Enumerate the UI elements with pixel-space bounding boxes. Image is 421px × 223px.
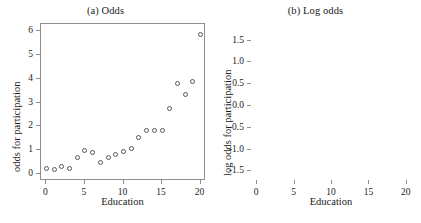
panel-a-yaxis-title: odds for participation xyxy=(11,82,23,172)
y-tick-mark xyxy=(36,149,40,150)
panel-a-plot-frame xyxy=(40,23,205,180)
y-tick-mark xyxy=(36,125,40,126)
panel-log-odds: (b) Log odds -1.5-1.0-0.50.00.51.01.5051… xyxy=(210,0,421,223)
y-tick-mark xyxy=(247,105,251,106)
data-point xyxy=(198,32,203,37)
y-tick-mark xyxy=(247,170,251,171)
x-tick-mark xyxy=(294,180,295,184)
data-point xyxy=(67,166,72,171)
data-point xyxy=(190,79,195,84)
panel-a-plot-area xyxy=(41,24,204,179)
y-tick-mark xyxy=(36,78,40,79)
data-point xyxy=(75,155,80,160)
x-tick-mark xyxy=(331,180,332,184)
x-tick-mark xyxy=(84,180,85,184)
data-point xyxy=(59,164,64,169)
y-tick-label: 1.5 xyxy=(211,35,244,45)
data-point xyxy=(44,166,49,171)
y-tick-mark xyxy=(247,61,251,62)
panel-a-xaxis-title: Education xyxy=(40,196,205,208)
y-tick-label: 6 xyxy=(0,25,33,35)
panel-b-yaxis-title: log odds for participation xyxy=(222,70,234,176)
y-tick-mark xyxy=(247,40,251,41)
data-point xyxy=(129,146,134,151)
data-point xyxy=(52,167,57,172)
y-tick-mark xyxy=(36,30,40,31)
figure-container: (a) Odds 012345605101520 Education odds … xyxy=(0,0,421,223)
data-point xyxy=(152,128,157,133)
x-tick-mark xyxy=(256,180,257,184)
y-tick-mark xyxy=(247,83,251,84)
data-point xyxy=(144,128,149,133)
y-tick-label: 1.0 xyxy=(211,56,244,66)
panel-a-title: (a) Odds xyxy=(0,4,211,17)
data-point xyxy=(183,92,188,97)
x-tick-mark xyxy=(45,180,46,184)
x-tick-mark xyxy=(368,180,369,184)
y-tick-mark xyxy=(36,173,40,174)
y-tick-mark xyxy=(36,54,40,55)
y-tick-mark xyxy=(247,127,251,128)
y-tick-label: 5 xyxy=(0,49,33,59)
y-tick-mark xyxy=(247,149,251,150)
data-point xyxy=(136,135,141,140)
x-tick-mark xyxy=(200,180,201,184)
data-point xyxy=(175,81,180,86)
data-point xyxy=(160,128,165,133)
panel-b-xaxis-title: Education xyxy=(251,196,411,208)
panel-b-title: (b) Log odds xyxy=(210,4,421,17)
data-point xyxy=(90,150,95,155)
data-point xyxy=(106,155,111,160)
data-point xyxy=(98,160,103,165)
data-point xyxy=(113,152,118,157)
data-point xyxy=(167,106,172,111)
x-tick-mark xyxy=(406,180,407,184)
y-tick-mark xyxy=(36,102,40,103)
data-point xyxy=(121,149,126,154)
x-tick-mark xyxy=(161,180,162,184)
x-tick-mark xyxy=(123,180,124,184)
data-point xyxy=(82,148,87,153)
panel-odds: (a) Odds 012345605101520 Education odds … xyxy=(0,0,211,223)
